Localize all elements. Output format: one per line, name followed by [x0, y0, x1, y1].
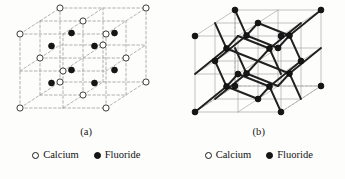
fluoride-ion: [49, 80, 55, 86]
bond: [258, 23, 290, 36]
legend-a: Calcium Fluoride: [0, 150, 173, 161]
legend-label-calcium: Calcium: [216, 150, 252, 161]
legend-label-calcium: Calcium: [43, 150, 79, 161]
bond: [226, 87, 258, 100]
panel-a: (a) Calcium Fluoride: [0, 0, 173, 179]
calcium-ion: [100, 42, 106, 48]
ion-node: [255, 96, 261, 102]
panel-b-canvas: [173, 0, 345, 140]
ion-node: [286, 33, 292, 39]
panel-a-caption: (a): [0, 126, 173, 137]
fluoride-ion: [92, 80, 98, 86]
legend-label-fluoride: Fluoride: [277, 150, 313, 161]
calcium-ion: [57, 79, 63, 85]
calcium-ion: [17, 31, 23, 37]
ion-node: [318, 83, 324, 89]
calcium-ion: [123, 55, 129, 61]
fluoride-ion: [112, 30, 118, 36]
calcium-ion: [143, 5, 149, 11]
figure-root: (a) Calcium Fluoride (b) Calcium: [0, 0, 345, 179]
ion-node: [243, 33, 249, 39]
ion-node: [266, 46, 272, 52]
fluoride-ion: [112, 67, 118, 73]
ion-node: [275, 45, 281, 51]
ion-node: [278, 33, 284, 39]
ion-node: [243, 71, 249, 77]
fluoride-ion: [69, 30, 75, 36]
calcium-ion: [57, 5, 63, 11]
calcium-ion: [37, 55, 43, 61]
ion-node: [298, 58, 304, 64]
legend-b: Calcium Fluoride: [173, 150, 345, 161]
legend-entry-calcium-b: Calcium: [205, 150, 252, 161]
calcium-ion: [17, 105, 23, 111]
ion-node: [192, 109, 198, 115]
ion-node: [266, 84, 272, 90]
calcium-ion: [103, 105, 109, 111]
ion-node: [286, 71, 292, 77]
ion-node: [318, 7, 324, 13]
legend-entry-fluoride-a: Fluoride: [94, 150, 141, 161]
fluoride-ion: [49, 43, 55, 49]
bond: [226, 49, 258, 62]
calcium-ion: [80, 18, 86, 24]
legend-entry-calcium-a: Calcium: [32, 150, 79, 161]
panel-a-canvas: [0, 0, 173, 140]
legend-entry-fluoride-b: Fluoride: [266, 150, 313, 161]
calcium-ion: [143, 79, 149, 85]
ion-node: [223, 84, 229, 90]
filled-circle-icon: [266, 152, 273, 159]
calcium-ion: [60, 68, 66, 74]
calcium-ion: [80, 92, 86, 98]
ion-node: [212, 58, 218, 64]
ion-node: [235, 71, 241, 77]
ion-node: [192, 33, 198, 39]
calcium-ion: [103, 31, 109, 37]
open-circle-icon: [32, 152, 39, 159]
open-circle-icon: [205, 152, 212, 159]
fluoride-ion: [69, 67, 75, 73]
panel-b: (b) Calcium Fluoride: [173, 0, 345, 179]
fluoride-ion: [92, 43, 98, 49]
ion-node: [223, 46, 229, 52]
filled-circle-icon: [94, 152, 101, 159]
ion-node: [232, 83, 238, 89]
ion-node: [232, 7, 238, 13]
legend-label-fluoride: Fluoride: [105, 150, 141, 161]
bond: [258, 61, 290, 74]
panel-b-caption: (b): [173, 126, 345, 137]
ion-node: [278, 109, 284, 115]
ion-node: [255, 20, 261, 26]
